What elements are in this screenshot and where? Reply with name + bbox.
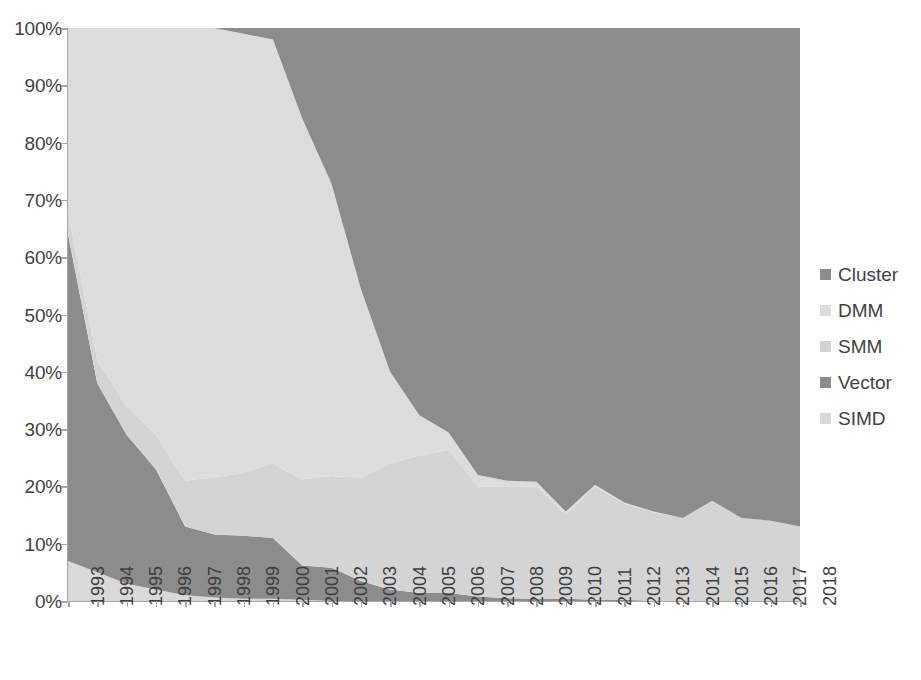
x-tick-mark (156, 601, 158, 607)
x-tick-mark (390, 601, 392, 607)
area-series-group (68, 28, 800, 601)
x-tick-mark (654, 601, 656, 607)
x-tick-mark (361, 601, 363, 607)
plot-area (68, 28, 800, 601)
x-tick-mark (419, 601, 421, 607)
y-tick-label-0: 0% (2, 592, 62, 611)
y-tick-label-50: 50% (2, 306, 62, 325)
x-tick-label-1999: 1999 (264, 566, 282, 606)
x-tick-label-2009: 2009 (557, 566, 575, 606)
y-tick-mark (61, 601, 67, 603)
legend: ClusterDMMSMMVectorSIMD (820, 256, 921, 436)
x-tick-mark (478, 601, 480, 607)
legend-label: DMM (838, 301, 883, 320)
x-tick-label-2002: 2002 (352, 566, 370, 606)
x-tick-mark (449, 601, 451, 607)
x-tick-mark (536, 601, 538, 607)
x-tick-mark (712, 601, 714, 607)
x-axis: 1993199419951996199719981999200020012002… (68, 604, 802, 680)
x-tick-label-1997: 1997 (206, 566, 224, 606)
x-tick-mark (273, 601, 275, 607)
x-tick-label-1995: 1995 (147, 566, 165, 606)
x-tick-mark (624, 601, 626, 607)
x-tick-label-2013: 2013 (674, 566, 692, 606)
x-tick-label-2014: 2014 (704, 566, 722, 606)
y-tick-mark (61, 315, 67, 317)
y-tick-label-90: 90% (2, 76, 62, 95)
x-tick-mark (244, 601, 246, 607)
y-tick-mark (61, 85, 67, 87)
x-tick-label-2005: 2005 (440, 566, 458, 606)
stacked-area-chart: 100%90%80%70%60%50%40%30%20%10%0% 199319… (0, 0, 921, 680)
x-tick-label-1996: 1996 (176, 566, 194, 606)
y-tick-mark (61, 28, 67, 30)
x-tick-label-2010: 2010 (586, 566, 604, 606)
legend-swatch-icon (820, 377, 831, 388)
x-tick-mark (302, 601, 304, 607)
x-tick-label-1998: 1998 (235, 566, 253, 606)
y-tick-label-60: 60% (2, 248, 62, 267)
x-tick-mark (214, 601, 216, 607)
legend-swatch-icon (820, 413, 831, 424)
x-tick-mark (127, 601, 129, 607)
x-tick-label-2003: 2003 (381, 566, 399, 606)
legend-label: Cluster (838, 265, 898, 284)
y-tick-label-20: 20% (2, 477, 62, 496)
legend-item-cluster[interactable]: Cluster (820, 256, 921, 292)
x-tick-mark (595, 601, 597, 607)
x-tick-mark (566, 601, 568, 607)
y-tick-mark (61, 486, 67, 488)
x-tick-mark (741, 601, 743, 607)
y-tick-label-10: 10% (2, 535, 62, 554)
x-tick-label-2012: 2012 (645, 566, 663, 606)
x-tick-mark (185, 601, 187, 607)
legend-label: Vector (838, 373, 892, 392)
legend-swatch-icon (820, 269, 831, 280)
x-tick-label-2008: 2008 (528, 566, 546, 606)
y-axis: 100%90%80%70%60%50%40%30%20%10%0% (0, 0, 62, 680)
y-tick-label-40: 40% (2, 363, 62, 382)
x-tick-label-2017: 2017 (791, 566, 809, 606)
legend-item-smm[interactable]: SMM (820, 328, 921, 364)
x-tick-label-2001: 2001 (323, 566, 341, 606)
y-tick-label-80: 80% (2, 134, 62, 153)
y-tick-mark (61, 372, 67, 374)
y-tick-mark (61, 544, 67, 546)
x-tick-label-2000: 2000 (294, 566, 312, 606)
legend-item-simd[interactable]: SIMD (820, 400, 921, 436)
x-tick-label-2016: 2016 (762, 566, 780, 606)
x-tick-mark (507, 601, 509, 607)
x-tick-label-2007: 2007 (499, 566, 517, 606)
x-tick-label-2015: 2015 (733, 566, 751, 606)
x-tick-mark (771, 601, 773, 607)
x-tick-label-2004: 2004 (411, 566, 429, 606)
x-tick-mark (332, 601, 334, 607)
y-tick-mark (61, 143, 67, 145)
y-tick-label-100: 100% (2, 19, 62, 38)
y-tick-mark (61, 257, 67, 259)
x-tick-label-2006: 2006 (469, 566, 487, 606)
y-tick-mark (61, 429, 67, 431)
x-tick-mark (800, 601, 802, 607)
x-tick-label-1993: 1993 (89, 566, 107, 606)
y-tick-label-30: 30% (2, 420, 62, 439)
legend-swatch-icon (820, 341, 831, 352)
x-tick-mark (97, 601, 99, 607)
legend-item-dmm[interactable]: DMM (820, 292, 921, 328)
legend-swatch-icon (820, 305, 831, 316)
x-tick-label-2018: 2018 (821, 566, 839, 606)
legend-label: SMM (838, 337, 882, 356)
y-tick-label-70: 70% (2, 191, 62, 210)
legend-item-vector[interactable]: Vector (820, 364, 921, 400)
x-tick-mark (683, 601, 685, 607)
x-tick-label-1994: 1994 (118, 566, 136, 606)
legend-label: SIMD (838, 409, 886, 428)
y-tick-mark (61, 200, 67, 202)
x-tick-mark (68, 601, 70, 607)
